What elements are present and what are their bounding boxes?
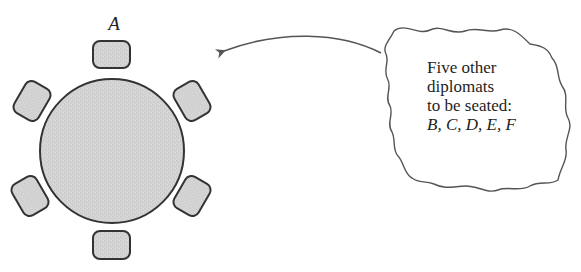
chair-upper-left	[11, 78, 53, 123]
callout-names: B, C, D, E, F	[427, 115, 567, 134]
callout-line-1: Five other	[427, 58, 567, 77]
chair-bottom	[93, 231, 130, 259]
chair-lower-left	[9, 173, 51, 218]
seat-label-a: A	[104, 13, 124, 35]
callout-line-3: to be seated:	[427, 96, 567, 115]
round-table	[40, 79, 184, 223]
callout-line-2: diplomats	[427, 77, 567, 96]
chair-upper-right	[171, 78, 213, 123]
pointer-arrow	[224, 36, 381, 53]
chair-top	[93, 41, 130, 68]
seating-diagram	[0, 0, 581, 272]
callout-text: Five other diplomats to be seated: B, C,…	[427, 58, 567, 134]
